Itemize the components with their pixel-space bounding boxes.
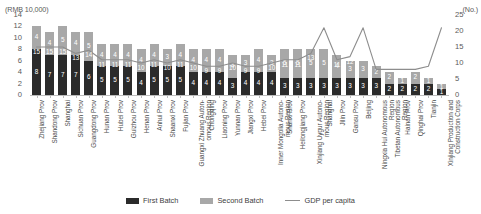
x-tick-mark (337, 95, 338, 98)
x-category-label: Shandong Prov (52, 100, 59, 143)
x-category-label: Beijing (366, 100, 373, 119)
x-category-label: Qinghai Prov (418, 100, 425, 136)
legend-label: First Batch (143, 196, 178, 205)
x-tick-mark (389, 95, 390, 98)
x-category-label: Shanghai (327, 100, 334, 127)
x-tick-mark (193, 95, 194, 98)
x-category-label: Jilin Prov (340, 100, 347, 125)
gdp-point-label: 10 (138, 65, 145, 71)
x-tick-mark (115, 95, 116, 98)
gdp-point-label: 11 (125, 62, 132, 68)
x-tick-mark (311, 95, 312, 98)
x-tick-mark (219, 95, 220, 98)
gdp-point-label: 11 (177, 62, 184, 68)
gdp-point-label: 12 (347, 58, 354, 64)
right-tick-25: 25 (455, 11, 471, 19)
x-tick-mark (50, 95, 51, 98)
x-tick-mark (246, 95, 247, 98)
gdp-point-label: 11 (99, 62, 106, 68)
gdp-point-label: 10 (190, 65, 197, 71)
gdp-point-label: 10 (229, 65, 236, 71)
legend-swatch-line-icon (285, 200, 300, 201)
gdp-point-label: 11 (334, 62, 341, 68)
right-tick-5: 5 (455, 75, 471, 83)
x-tick-mark (402, 95, 403, 98)
x-category-label: Liaoning Prov (222, 100, 229, 138)
x-tick-mark (180, 95, 181, 98)
x-tick-mark (37, 95, 38, 98)
legend-label: GDP per capita (304, 196, 354, 205)
gdp-point-label: 15 (59, 49, 66, 55)
legend-item[interactable]: First Batch (126, 196, 178, 205)
x-category-label: Hebei Prov (261, 100, 268, 131)
x-tick-mark (167, 95, 168, 98)
left-tick-4: 4 (6, 68, 22, 76)
x-tick-mark (376, 95, 377, 98)
x-category-label: Shaanxi Prov (170, 100, 177, 137)
legend-swatch-second-icon (200, 198, 213, 204)
gdp-point-label: 15 (46, 49, 53, 55)
x-tick-mark (63, 95, 64, 98)
gdp-point-label: 11 (295, 62, 302, 68)
x-category-label: Jiangxi Prov (248, 100, 255, 134)
chart-container: (RMB 10,000) (No.) 02468101214 051015202… (0, 0, 481, 214)
gdp-point-label: 11 (151, 62, 158, 68)
x-category-label: Xinjiang Production andConstruction Corp… (448, 100, 461, 166)
x-category-label: Shanghai (65, 100, 72, 127)
left-tick-0: 0 (6, 91, 22, 99)
x-tick-mark (232, 95, 233, 98)
x-category-label: Hainan Prov (405, 100, 412, 135)
right-tick-0: 0 (455, 91, 471, 99)
legend-swatch-first-icon (126, 198, 139, 204)
x-tick-mark (154, 95, 155, 98)
gdp-point-label: 15 (33, 49, 40, 55)
x-tick-mark (350, 95, 351, 98)
plot-area: 4847574756454545444535454444444334443453… (30, 15, 448, 95)
gdp-point-label: 10 (164, 65, 171, 71)
x-tick-mark (128, 95, 129, 98)
x-tick-mark (428, 95, 429, 98)
gdp-point-label: 11 (112, 62, 119, 68)
x-category-label: Chongqing (209, 100, 216, 130)
legend-item[interactable]: GDP per capita (285, 196, 354, 205)
left-tick-14: 14 (6, 11, 22, 19)
gdp-point-label: 13 (72, 55, 79, 61)
x-category-label: Hubei Prov (118, 100, 125, 131)
x-tick-mark (141, 95, 142, 98)
x-category-label: Guizhou Prov (131, 100, 138, 138)
x-axis-line (30, 95, 449, 96)
x-category-label: Zhejiang Prov (39, 100, 46, 139)
chart-legend: First BatchSecond BatchGDP per capita (0, 196, 481, 205)
x-category-label: Shanxi Prov (287, 100, 294, 134)
gdp-point-label: 9 (244, 68, 248, 74)
gdp-per-capita-line (30, 15, 448, 95)
x-category-label: Gansu Prov (353, 100, 360, 133)
gdp-point-label: 9 (257, 68, 261, 74)
gdp-point-label: 10 (268, 65, 275, 71)
left-tick-8: 8 (6, 45, 22, 53)
legend-item[interactable]: Second Batch (200, 196, 263, 205)
x-tick-mark (285, 95, 286, 98)
gdp-point-label: 14 (85, 52, 92, 58)
x-category-label: Heilongjiang Prov (300, 100, 307, 149)
right-tick-20: 20 (455, 27, 471, 35)
left-tick-10: 10 (6, 34, 22, 42)
x-tick-mark (89, 95, 90, 98)
right-tick-10: 10 (455, 59, 471, 67)
left-tick-2: 2 (6, 80, 22, 88)
x-tick-mark (206, 95, 207, 98)
right-tick-15: 15 (455, 43, 471, 51)
x-tick-mark (259, 95, 260, 98)
x-category-label: Fujian Prov (183, 100, 190, 132)
left-tick-12: 12 (6, 22, 22, 30)
legend-label: Second Batch (217, 196, 263, 205)
x-category-label: Sichuan Prov (78, 100, 85, 137)
x-category-label: Hunan Prov (104, 100, 111, 133)
gdp-point-label: 9 (205, 68, 209, 74)
left-tick-6: 6 (6, 57, 22, 65)
gdp-point-label: 13 (307, 55, 314, 61)
x-tick-mark (102, 95, 103, 98)
gdp-point-label: 9 (218, 68, 222, 74)
x-category-label: Anhui Prov (157, 100, 164, 131)
x-tick-mark (272, 95, 273, 98)
